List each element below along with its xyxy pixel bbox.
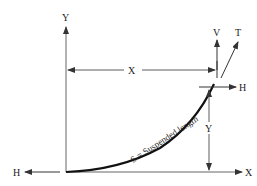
y-axis-label: Y xyxy=(62,12,69,23)
x-axis-label: X xyxy=(245,167,253,178)
v-force-label: V xyxy=(213,27,221,38)
curve-label: S = Suspended length xyxy=(129,113,201,164)
h-right-label: H xyxy=(239,82,246,93)
y-dimension-label: Y xyxy=(205,123,212,134)
x-dimension-label: X xyxy=(128,65,136,76)
t-force-arrow-icon xyxy=(221,42,238,78)
h-left-label: H xyxy=(13,167,20,178)
t-force-label: T xyxy=(235,27,241,38)
x-dimension xyxy=(68,61,217,78)
catenary-diagram: Y X H S = Suspended length X V T H Y xyxy=(0,0,257,186)
